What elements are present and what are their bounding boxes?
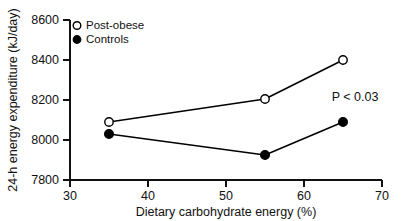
y-tick-label-8600: 8600	[31, 13, 59, 27]
legend-label-controls: Controls	[86, 33, 129, 45]
x-tick-label-70: 70	[375, 189, 389, 203]
p-value-annotation: P < 0.03	[332, 90, 379, 104]
series-markers-post-obese	[105, 56, 347, 126]
data-point-post-obese-35	[105, 118, 113, 126]
x-tick-label-40: 40	[141, 189, 155, 203]
chart-figure: 8600 8400 8200 8000 7800 30 40 50 60 70 …	[0, 0, 402, 221]
legend-label-post-obese: Post-obese	[86, 19, 144, 31]
chart-legend: Post-obese Controls	[73, 19, 144, 45]
data-point-post-obese-55	[261, 95, 269, 103]
y-axis-title: 24-h energy expenditure (kJ/day)	[6, 8, 20, 191]
x-tick-label-60: 60	[297, 189, 311, 203]
y-tick-label-8000: 8000	[31, 133, 59, 147]
data-point-controls-35	[105, 130, 114, 139]
legend-marker-filled-circle	[73, 36, 81, 44]
data-point-controls-55	[261, 151, 270, 160]
legend-marker-open-circle	[73, 22, 81, 30]
series-line-controls	[109, 122, 343, 155]
x-axis-title: Dietary carbohydrate energy (%)	[136, 205, 317, 219]
data-point-controls-65	[339, 118, 348, 127]
x-tick-label-30: 30	[63, 189, 77, 203]
x-tick-label-50: 50	[219, 189, 233, 203]
data-point-post-obese-65	[339, 56, 347, 64]
y-tick-label-8400: 8400	[31, 53, 59, 67]
series-line-post-obese	[109, 60, 343, 122]
y-tick-label-8200: 8200	[31, 93, 59, 107]
line-chart: 8600 8400 8200 8000 7800 30 40 50 60 70 …	[0, 0, 402, 221]
y-tick-label-7800: 7800	[31, 173, 59, 187]
